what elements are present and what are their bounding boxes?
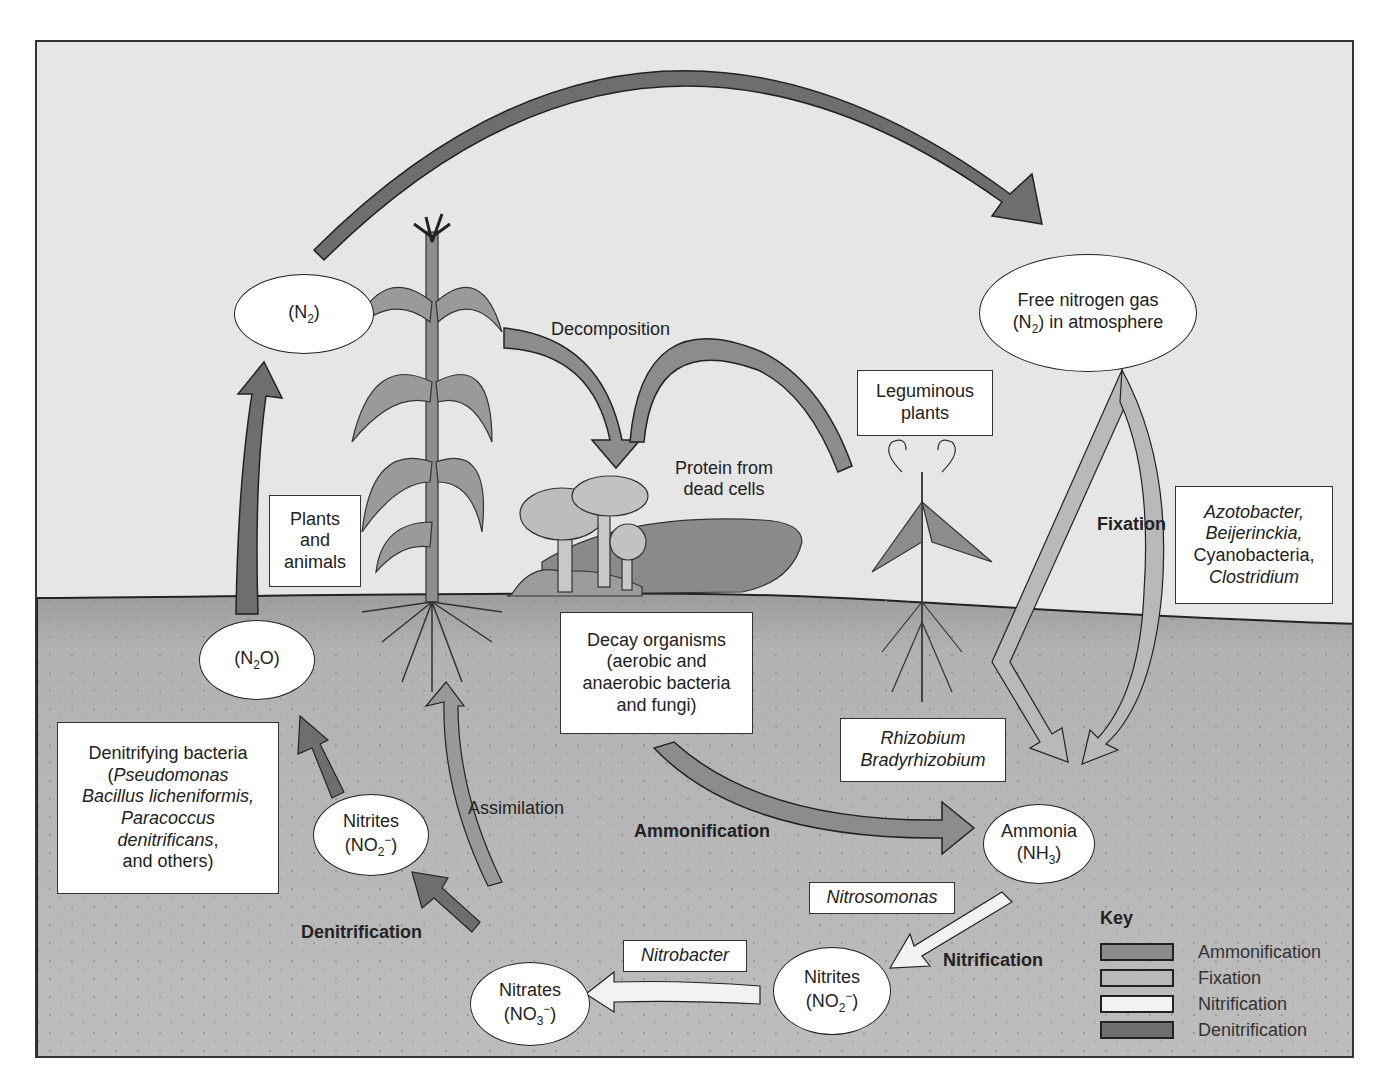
node-nitrites-right: Nitrites (NO2−) [773,947,891,1035]
box-free-living-fixers: Azotobacter, Beijerinckia, Cyanobacteria… [1175,486,1333,604]
node-nitrites-left: Nitrites (NO2−) [313,794,429,876]
label-decomposition: Decomposition [551,319,670,340]
legend-swatch-nitrification [1100,995,1174,1013]
legend-swatch-denitrification [1100,1021,1174,1039]
legend-title: Key [1100,908,1321,929]
box-plants-animals: Plants and animals [269,495,361,587]
node-nitrates: Nitrates (NO3−) [470,962,590,1046]
diagram-artwork [37,42,1354,1058]
legend-item-fixation: Fixation [1100,965,1321,991]
box-leguminous-plants: Leguminous plants [857,370,993,436]
label-protein-dead-cells: Protein from dead cells [675,458,773,500]
node-n2-gas: (N2) [234,274,374,354]
legend-item-denitrification: Denitrification [1100,1017,1321,1043]
box-nitrosomonas: Nitrosomonas [809,882,955,914]
label-denitrification: Denitrification [301,922,422,943]
legend-swatch-fixation [1100,969,1174,987]
label-nitrification: Nitrification [943,950,1043,971]
node-n2o: (N2O) [199,620,315,700]
label-ammonification: Ammonification [634,821,770,842]
box-denitrifying-bacteria: Denitrifying bacteria (Pseudomonas Bacil… [57,722,279,894]
legend-item-ammonification: Ammonification [1100,939,1321,965]
label-assimilation: Assimilation [468,798,564,819]
label-fixation: Fixation [1097,514,1166,535]
box-nitrobacter: Nitrobacter [623,940,747,972]
diagram-frame: (N2) Free nitrogen gas (N2) in atmospher… [35,40,1354,1058]
legend: Key Ammonification Fixation Nitrificatio… [1100,908,1321,1043]
legend-swatch-ammonification [1100,943,1174,961]
node-ammonia: Ammonia (NH3) [983,804,1095,884]
box-decay-organisms: Decay organisms (aerobic and anaerobic b… [560,612,753,734]
node-free-nitrogen-gas: Free nitrogen gas (N2) in atmosphere [979,254,1197,372]
box-rhizobium: Rhizobium Bradyrhizobium [840,718,1006,782]
legend-item-nitrification: Nitrification [1100,991,1321,1017]
